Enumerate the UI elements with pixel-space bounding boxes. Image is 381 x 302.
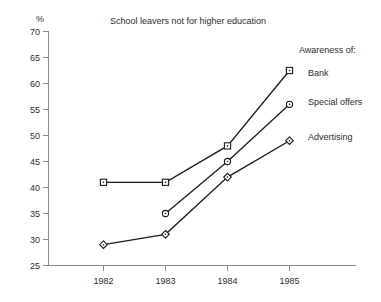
- y-tick-label-55: 55: [30, 105, 40, 115]
- x-tick-label-1985: 1985: [279, 276, 299, 286]
- y-tick-label-35: 35: [30, 209, 40, 219]
- y-tick-label-30: 30: [30, 235, 40, 245]
- series-bank: [100, 67, 292, 185]
- data-point-center: [165, 234, 167, 236]
- data-point-center: [103, 182, 105, 184]
- legend-title: Awareness of:: [299, 45, 356, 55]
- series-advertising: [100, 137, 294, 249]
- y-axis-ticks: 70 65 60 55 50 45 40 35 30 25: [30, 27, 49, 271]
- x-tick-label-1983: 1983: [155, 276, 175, 286]
- data-point-center: [227, 161, 229, 163]
- data-point-center: [165, 213, 167, 215]
- y-tick-label-40: 40: [30, 183, 40, 193]
- x-tick-label-1984: 1984: [217, 276, 237, 286]
- data-point-center: [165, 182, 167, 184]
- series-line-bank: [104, 71, 290, 183]
- legend-label-special-offers: Special offers: [308, 97, 363, 107]
- chart-title: School leavers not for higher education: [110, 16, 266, 26]
- legend-label-advertising: Advertising: [308, 132, 353, 142]
- y-tick-label-50: 50: [30, 131, 40, 141]
- data-point-center: [227, 145, 229, 147]
- x-axis-ticks: 1982 1983 1984 1985: [93, 266, 299, 287]
- legend: Awareness of: Bank Special offers Advert…: [299, 45, 363, 142]
- y-tick-label-45: 45: [30, 157, 40, 167]
- series-layer: [100, 67, 304, 248]
- y-axis-unit-label: %: [36, 14, 44, 24]
- series-line-advertising: [104, 141, 290, 245]
- data-point-center: [103, 244, 105, 246]
- legend-label-bank: Bank: [308, 68, 329, 78]
- chart-page: School leavers not for higher education …: [0, 0, 381, 302]
- y-tick-label-70: 70: [30, 27, 40, 37]
- data-point-center: [227, 176, 229, 178]
- x-tick-label-1982: 1982: [93, 276, 113, 286]
- y-tick-label-60: 60: [30, 79, 40, 89]
- y-tick-label-25: 25: [30, 261, 40, 271]
- series-special-offers: [162, 101, 292, 216]
- line-chart: School leavers not for higher education …: [0, 0, 381, 302]
- y-tick-label-65: 65: [30, 53, 40, 63]
